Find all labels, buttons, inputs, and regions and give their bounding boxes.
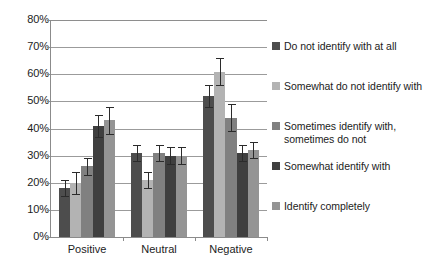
- error-bar-cap-upper: [144, 172, 152, 173]
- error-bar: [170, 147, 171, 163]
- error-bar: [181, 147, 182, 163]
- error-bar-cap-upper: [95, 115, 103, 116]
- error-bar: [98, 115, 99, 137]
- gridline: [51, 20, 267, 21]
- error-bar: [109, 107, 110, 134]
- y-tick-mark: [47, 237, 51, 238]
- error-bar: [76, 172, 77, 194]
- error-bar-cap-lower: [106, 134, 114, 135]
- x-tick-label-neutral: Neutral: [123, 243, 195, 255]
- error-bar-cap-upper: [167, 147, 175, 148]
- error-bar-cap-lower: [72, 194, 80, 195]
- error-bar: [220, 58, 221, 85]
- error-bar-cap-lower: [167, 164, 175, 165]
- legend-item-label: Identify completely: [284, 200, 370, 213]
- bar: [93, 126, 104, 237]
- error-bar-cap-upper: [239, 145, 247, 146]
- chart-legend: Do not identify with at allSomewhat do n…: [272, 32, 424, 232]
- legend-swatch-icon: [272, 82, 280, 90]
- error-bar-cap-upper: [250, 142, 258, 143]
- error-bar-cap-lower: [178, 164, 186, 165]
- y-tick-label: 80%: [5, 14, 49, 25]
- error-bar-cap-upper: [133, 145, 141, 146]
- y-tick-label: 60%: [5, 68, 49, 79]
- gridline: [51, 101, 267, 102]
- legend-item-label: Do not identify with at all: [284, 40, 396, 53]
- x-axis-line: [50, 237, 267, 238]
- y-tick-label: 70%: [5, 41, 49, 52]
- x-tick-mark: [123, 237, 124, 241]
- legend-item-label: Somewhat do not identify with: [284, 80, 422, 93]
- legend-item[interactable]: Somewhat do not identify with: [272, 80, 424, 93]
- y-tick-label: 40%: [5, 123, 49, 134]
- error-bar: [137, 145, 138, 161]
- error-bar-cap-upper: [178, 147, 186, 148]
- error-bar: [253, 142, 254, 158]
- y-tick-label: 30%: [5, 150, 49, 161]
- bar: [248, 150, 259, 237]
- error-bar-cap-lower: [133, 161, 141, 162]
- y-tick-mark: [47, 47, 51, 48]
- x-tick-label-positive: Positive: [51, 243, 123, 255]
- error-bar: [148, 172, 149, 188]
- y-tick-mark: [47, 183, 51, 184]
- legend-item-label: Somewhat identify with: [284, 160, 390, 173]
- y-tick-mark: [47, 129, 51, 130]
- error-bar-cap-lower: [250, 158, 258, 159]
- error-bar-cap-lower: [216, 85, 224, 86]
- legend-item[interactable]: Do not identify with at all: [272, 40, 424, 53]
- error-bar-cap-upper: [72, 172, 80, 173]
- legend-swatch-icon: [272, 202, 280, 210]
- plot-area: [51, 20, 267, 237]
- error-bar-cap-lower: [144, 188, 152, 189]
- legend-item-label: Sometimes identify with, sometimes do no…: [284, 120, 424, 145]
- bar: [225, 118, 236, 237]
- y-axis: 0%10%20%30%40%50%60%70%80%: [0, 0, 49, 274]
- x-tick-label-negative: Negative: [195, 243, 267, 255]
- error-bar-cap-lower: [156, 161, 164, 162]
- legend-swatch-icon: [272, 162, 280, 170]
- error-bar-cap-upper: [205, 85, 213, 86]
- error-bar: [209, 85, 210, 107]
- y-tick-label: 10%: [5, 204, 49, 215]
- y-tick-label: 50%: [5, 95, 49, 106]
- y-tick-mark: [47, 101, 51, 102]
- bar-chart: 0%10%20%30%40%50%60%70%80% PositiveNeutr…: [0, 0, 425, 274]
- error-bar-cap-lower: [205, 107, 213, 108]
- legend-item[interactable]: Somewhat identify with: [272, 160, 424, 173]
- error-bar-cap-lower: [228, 131, 236, 132]
- y-tick-mark: [47, 74, 51, 75]
- error-bar-cap-upper: [106, 107, 114, 108]
- error-bar: [87, 158, 88, 174]
- bar: [237, 153, 248, 237]
- bar: [176, 156, 187, 237]
- error-bar: [231, 104, 232, 131]
- legend-swatch-icon: [272, 122, 280, 130]
- y-tick-label: 20%: [5, 177, 49, 188]
- error-bar: [159, 145, 160, 161]
- error-bar-cap-lower: [95, 137, 103, 138]
- y-tick-label: 0%: [5, 231, 49, 242]
- error-bar-cap-lower: [239, 161, 247, 162]
- legend-item[interactable]: Sometimes identify with, sometimes do no…: [272, 120, 424, 145]
- legend-item[interactable]: Identify completely: [272, 200, 424, 213]
- bar: [203, 96, 214, 237]
- bar: [153, 153, 164, 237]
- legend-swatch-icon: [272, 42, 280, 50]
- bar: [81, 166, 92, 237]
- error-bar-cap-upper: [228, 104, 236, 105]
- error-bar-cap-lower: [84, 175, 92, 176]
- error-bar-cap-lower: [61, 196, 69, 197]
- bar: [165, 156, 176, 237]
- bar: [214, 72, 225, 237]
- x-axis: PositiveNeutralNegative: [51, 243, 267, 263]
- y-tick-mark: [47, 20, 51, 21]
- y-tick-mark: [47, 210, 51, 211]
- bar: [104, 120, 115, 237]
- y-tick-mark: [47, 156, 51, 157]
- gridline: [51, 47, 267, 48]
- gridline: [51, 74, 267, 75]
- error-bar-cap-upper: [84, 158, 92, 159]
- bar: [131, 153, 142, 237]
- x-tick-mark: [195, 237, 196, 241]
